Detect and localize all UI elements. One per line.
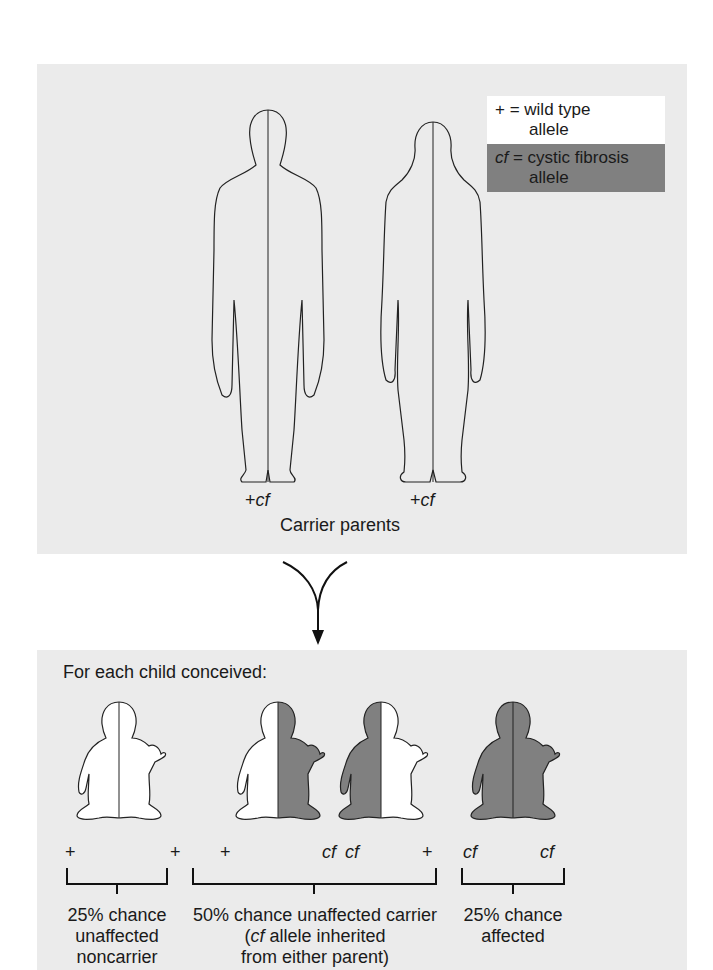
outcome-noncarrier: 25% chance unaffected noncarrier bbox=[57, 905, 177, 968]
outcome-carrier: 50% chance unaffected carrier (cf allele… bbox=[184, 905, 446, 968]
bracket-noncarrier bbox=[67, 868, 167, 894]
allele-inherited: allele inherited bbox=[264, 926, 385, 946]
outcome-noncarrier-line3: noncarrier bbox=[57, 947, 177, 968]
bracket-affected bbox=[462, 868, 564, 894]
brackets bbox=[0, 0, 713, 970]
bracket-carrier bbox=[193, 868, 436, 894]
outcome-carrier-line3: from either parent) bbox=[184, 947, 446, 968]
outcome-affected: 25% chance affected bbox=[458, 905, 568, 947]
outcome-carrier-line2: (cf allele inherited bbox=[184, 926, 446, 947]
outcome-carrier-line1: 50% chance unaffected carrier bbox=[184, 905, 446, 926]
cf-italic: cf bbox=[250, 926, 264, 946]
outcome-noncarrier-line2: unaffected bbox=[57, 926, 177, 947]
outcome-noncarrier-line1: 25% chance bbox=[57, 905, 177, 926]
outcome-affected-line2: affected bbox=[458, 926, 568, 947]
outcome-affected-line1: 25% chance bbox=[458, 905, 568, 926]
